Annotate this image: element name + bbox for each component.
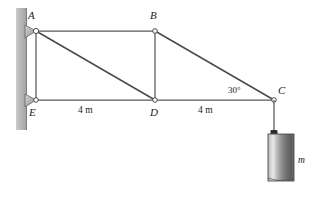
member-a-d	[36, 31, 155, 100]
dimension-label-ed: 4 m	[78, 106, 93, 116]
node-label-a: A	[28, 10, 35, 21]
truss-figure: A B C D E 4 m 4 m 30° m	[0, 0, 322, 197]
hanging-load	[268, 100, 294, 181]
joint-e	[34, 98, 39, 103]
node-label-c: C	[278, 85, 285, 96]
node-label-e: E	[29, 107, 36, 118]
joint-d	[153, 98, 158, 103]
truss-diagram-canvas	[0, 0, 322, 197]
node-label-d: D	[150, 107, 158, 118]
angle-label-bcd: 30°	[228, 86, 241, 95]
node-label-b: B	[150, 10, 157, 21]
member-b-c	[155, 31, 274, 100]
joint-b	[153, 29, 158, 34]
mass-label: m	[298, 156, 305, 166]
dimension-label-dc: 4 m	[198, 106, 213, 116]
joint-a	[33, 28, 38, 33]
mass-cylinder	[268, 134, 294, 181]
